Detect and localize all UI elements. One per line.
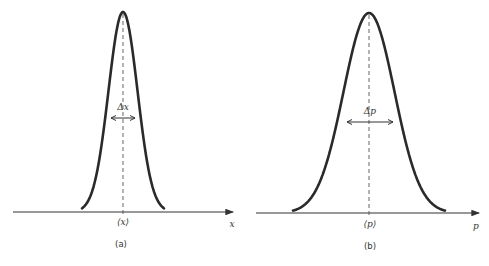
mean-x-label: ⟨x⟩ — [117, 217, 129, 227]
caption-b: (b) — [364, 241, 376, 251]
caption-a: (a) — [115, 239, 127, 249]
mean-p-label: ⟨p⟩ — [364, 219, 377, 229]
delta-p-label: Δp — [363, 106, 376, 116]
p-axis-label: p — [473, 221, 479, 231]
x-axis-label: x — [229, 219, 234, 229]
delta-x-label: Δx — [116, 102, 129, 112]
panel-b: Δp ⟨p⟩ p (b) — [256, 13, 479, 251]
panel-a: Δx ⟨x⟩ x (a) — [13, 12, 235, 249]
uncertainty-diagram: Δx ⟨x⟩ x (a) Δp ⟨p⟩ p (b) — [0, 0, 489, 266]
